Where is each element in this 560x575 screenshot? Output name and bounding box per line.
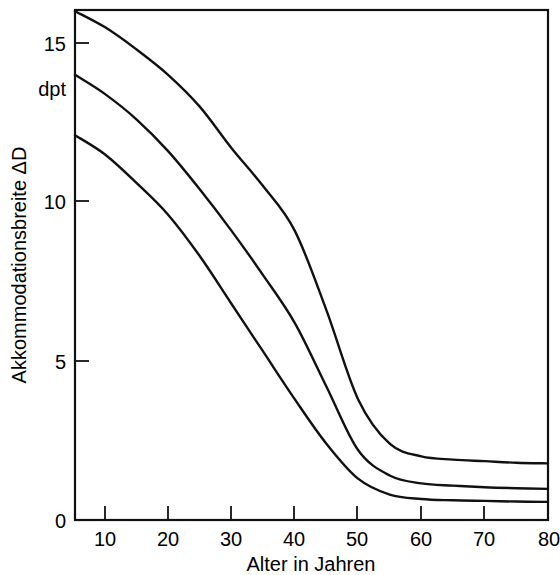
x-tick-label-50: 50 [346,528,368,550]
x-tick-label-40: 40 [283,528,305,550]
x-tick-label-10: 10 [94,528,116,550]
y-tick-label-10: 10 [44,191,66,213]
x-tick-label-60: 60 [410,528,432,550]
y-axis-unit-label: dpt [38,78,66,100]
x-axis-tick-labels: 10 20 30 40 50 60 70 80 [94,528,560,550]
y-axis-tick-labels: 15 10 5 0 [44,33,66,532]
x-tick-label-20: 20 [157,528,179,550]
y-axis-title: Akkommodationsbreite ΔD [8,147,30,384]
y-tick-label-5: 5 [55,351,66,373]
chart-figure: 15 10 5 0 dpt Akkommodationsbreite ΔD 10… [0,0,560,575]
y-tick-label-15: 15 [44,33,66,55]
x-tick-label-80: 80 [538,528,560,550]
x-tick-label-70: 70 [473,528,495,550]
x-axis-title: Alter in Jahren [247,553,376,575]
accommodation-amplitude-chart: 15 10 5 0 dpt Akkommodationsbreite ΔD 10… [0,0,560,575]
y-tick-label-0: 0 [55,510,66,532]
plot-frame [75,10,548,520]
x-tick-label-30: 30 [220,528,242,550]
